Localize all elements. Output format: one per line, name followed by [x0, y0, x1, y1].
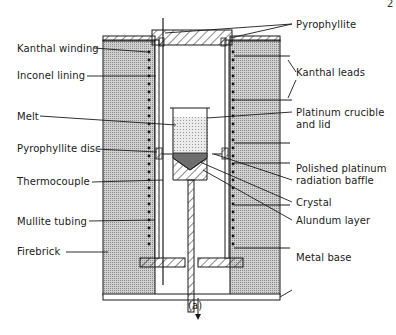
label-melt: Melt	[17, 111, 39, 122]
label-crystal: Crystal	[296, 197, 332, 208]
label-firebrick: Firebrick	[17, 246, 60, 257]
label-pyrophyllite-disc: Pyrophyllite disc	[17, 143, 101, 154]
label-kanthal-winding: Kanthal winding	[17, 43, 99, 54]
label-thermocouple: Thermocouple	[17, 176, 90, 187]
label-mullite-tubing: Mullite tubing	[17, 216, 87, 227]
label-polished-baffle-1: Polished platinum	[296, 163, 387, 174]
platinum-crucible	[170, 108, 210, 158]
pull-direction-arrow-icon	[195, 314, 201, 320]
label-inconel-lining: Inconel lining	[17, 70, 85, 81]
label-kanthal-leads: Kanthal leads	[296, 67, 365, 78]
left-firebrick-wall	[103, 36, 155, 295]
figure-caption: (a)	[188, 300, 202, 311]
pyrophyllite-disc-left	[156, 148, 162, 159]
label-pyrophyllite: Pyrophyllite	[296, 19, 356, 30]
pull-rod	[188, 180, 194, 312]
label-polished-baffle-2: radiation baffle	[296, 175, 374, 186]
right-firebrick-wall	[230, 36, 280, 295]
label-alundum-layer: Alundum layer	[296, 215, 370, 226]
page-number: 2	[387, 0, 393, 9]
label-platinum-crucible-1: Platinum crucible	[296, 107, 384, 118]
label-platinum-crucible-2: and lid	[296, 119, 331, 130]
label-metal-base: Metal base	[296, 252, 352, 263]
